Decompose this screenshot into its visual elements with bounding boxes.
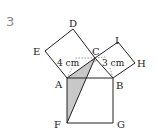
- label-e: E: [33, 46, 40, 57]
- label-d: D: [69, 18, 77, 29]
- label-i: I: [115, 35, 119, 46]
- label-ac-length: 4 cm: [57, 58, 80, 68]
- label-bc-length: 3 cm: [102, 58, 125, 68]
- label-g: G: [117, 119, 125, 130]
- label-b: B: [116, 80, 123, 91]
- pythagorean-figure: 4 cm 3 cm D E C I H A B F G: [0, 0, 155, 138]
- label-h: H: [137, 58, 146, 69]
- label-f: F: [54, 119, 61, 130]
- label-c: C: [92, 46, 100, 57]
- label-a: A: [54, 79, 63, 90]
